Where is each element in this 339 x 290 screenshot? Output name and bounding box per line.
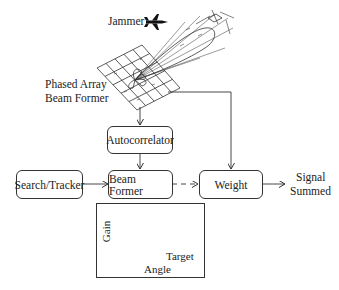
weight-block: Weight — [199, 170, 263, 199]
search-tracker-block: Search/Tracker — [16, 170, 83, 199]
target-label: Target — [166, 251, 194, 262]
arrow-array-to-weight — [168, 92, 231, 169]
angle-axis-label: Angle — [144, 264, 171, 275]
output-label-line2: Summed — [290, 186, 331, 198]
beam-former-label: Beam Former — [109, 173, 172, 197]
jammer-label: Jammer — [108, 16, 144, 28]
phased-array-label-line2: Beam Former — [45, 93, 109, 105]
autocorrelator-label: Autocorrelator — [106, 134, 174, 146]
jet-icon — [144, 14, 168, 30]
gain-axis-label: Gain — [101, 221, 112, 242]
search-tracker-label: Search/Tracker — [15, 179, 85, 191]
weight-label: Weight — [215, 179, 248, 191]
phased-array-label-line1: Phased Array — [45, 79, 107, 91]
beam-former-block: Beam Former — [108, 170, 173, 199]
autocorrelator-block: Autocorrelator — [107, 126, 173, 154]
output-label-line1: Signal — [296, 172, 325, 184]
